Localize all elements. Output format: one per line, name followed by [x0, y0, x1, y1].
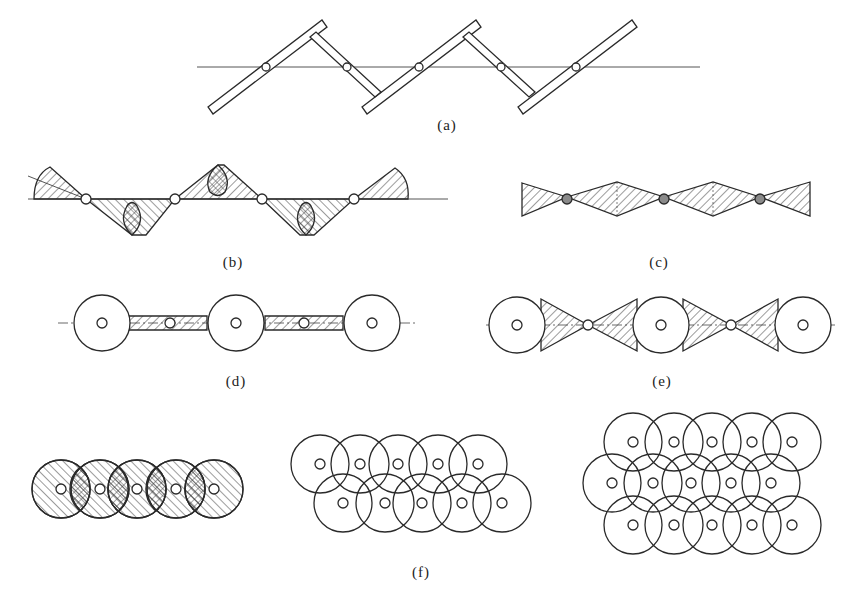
pivot-node — [726, 320, 736, 330]
pivot-node — [257, 194, 267, 204]
pivot-node — [299, 318, 309, 328]
panel-f-three-rows — [583, 413, 821, 554]
pivot-node — [343, 63, 351, 71]
pivot-node — [81, 194, 91, 204]
panel-a-linkage — [197, 20, 700, 114]
diagram-canvas — [0, 0, 848, 592]
pivot-node — [562, 194, 572, 204]
pivot-node — [349, 194, 359, 204]
panel-label-e: (e) — [642, 373, 682, 390]
panel-label-d: (d) — [216, 373, 256, 390]
pivot-node — [755, 194, 765, 204]
pivot-node — [170, 194, 180, 204]
panel-d-bridged-circles — [58, 295, 418, 351]
panel-label-a: (a) — [427, 117, 467, 134]
pivot-node — [659, 194, 669, 204]
pivot-node — [583, 320, 593, 330]
pivot-node — [572, 63, 580, 71]
panel-f-single-row — [32, 460, 243, 518]
pivot-node — [415, 63, 423, 71]
panel-c-rhombic — [522, 182, 810, 216]
pivot-node — [497, 63, 505, 71]
panel-label-b: (b) — [213, 254, 253, 271]
pivot-node — [165, 318, 175, 328]
panel-b-sweep — [28, 165, 448, 235]
panel-label-c: (c) — [639, 254, 679, 271]
panel-e-tangent-circles — [486, 297, 835, 353]
panel-label-f: (f) — [401, 564, 441, 581]
pivot-node — [262, 63, 270, 71]
panel-f-two-rows — [291, 435, 531, 532]
